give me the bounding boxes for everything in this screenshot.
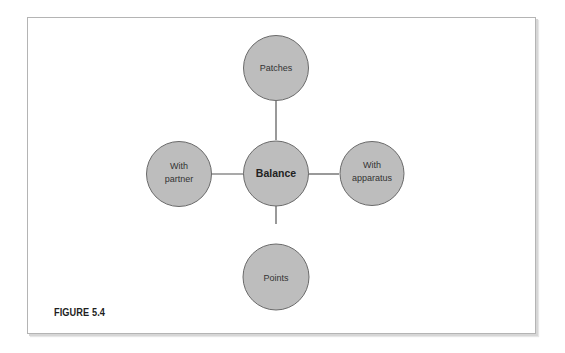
node-with-partner: With partner <box>147 142 212 207</box>
diagram-canvas: Patches With partner Balance With appara… <box>0 0 565 353</box>
node-points-label: Points <box>263 273 289 283</box>
node-balance-label: Balance <box>256 167 296 179</box>
node-with-apparatus-label-line2: apparatus <box>352 173 393 183</box>
node-patches-label: Patches <box>260 63 293 73</box>
node-with-partner-label-line2: partner <box>165 174 194 184</box>
figure-caption: FIGURE 5.4 <box>54 307 105 318</box>
node-with-apparatus-label-line1: With <box>363 160 381 170</box>
node-with-partner-label-line1: With <box>170 161 188 171</box>
node-points: Points <box>243 244 309 310</box>
node-balance: Balance <box>244 141 309 206</box>
node-patches: Patches <box>244 36 309 101</box>
node-with-apparatus: With apparatus <box>340 142 404 206</box>
